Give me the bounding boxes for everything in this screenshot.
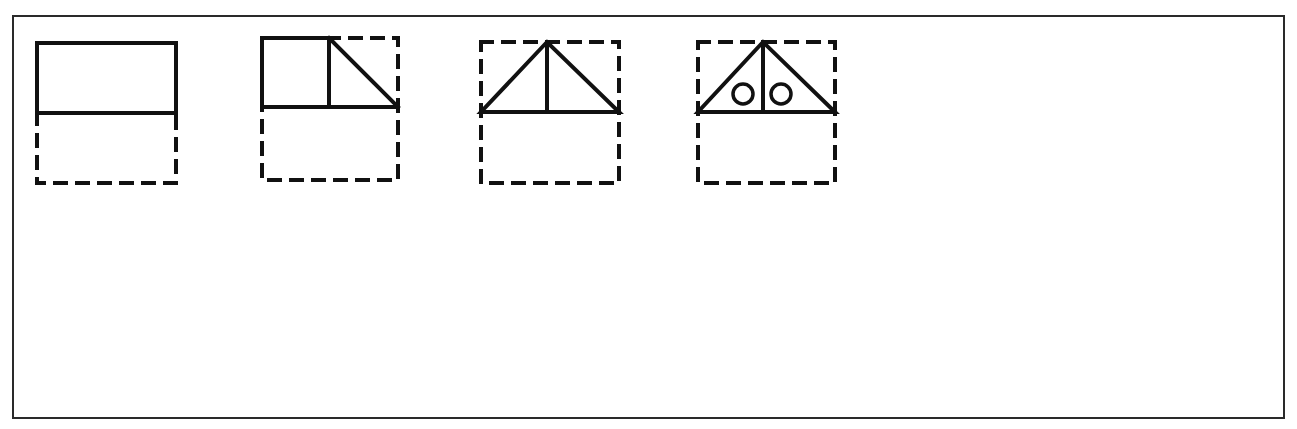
figure-4-triangle-with-circles <box>698 42 835 183</box>
figure-2-square-triangle <box>262 38 398 180</box>
small-circle-right-icon <box>771 84 791 104</box>
figure-1-rectangle <box>37 43 176 183</box>
figure-3-triangle <box>481 42 619 183</box>
puzzle-canvas <box>0 0 1297 429</box>
small-circle-left-icon <box>733 84 753 104</box>
